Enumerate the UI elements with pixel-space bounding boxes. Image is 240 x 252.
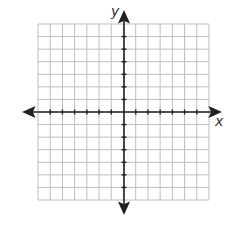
y-axis-label: y (111, 3, 119, 19)
x-axis-label: x (215, 113, 223, 129)
y-axis-down-arrow-icon (120, 203, 129, 213)
x-axis-left-arrow-icon (24, 108, 34, 117)
axes (24, 12, 220, 213)
y-axis-up-arrow-icon (120, 12, 129, 22)
coordinate-plane (0, 0, 240, 252)
